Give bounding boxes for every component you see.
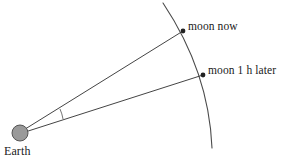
moon-later-label: moon 1 h later [208, 65, 276, 77]
radius-line-moon-now [22, 31, 183, 131]
diagram-canvas [0, 0, 289, 162]
moon-orbit-diagram: moon now moon 1 h later Earth [0, 0, 289, 162]
moon-now-label: moon now [188, 21, 238, 33]
earth-label: Earth [4, 145, 31, 157]
radius-line-moon-later [22, 75, 203, 133]
angle-arc-marker [60, 109, 63, 119]
moon-now-marker [181, 29, 186, 34]
moon-later-marker [201, 73, 206, 78]
earth-circle [12, 125, 28, 141]
